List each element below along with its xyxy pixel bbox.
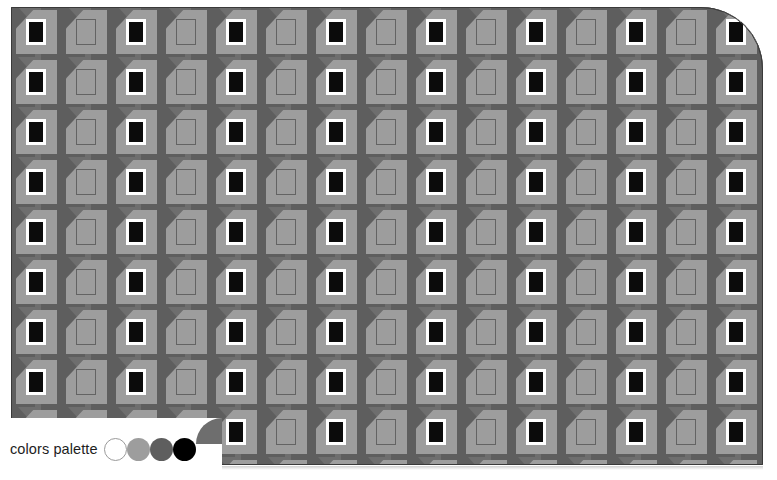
door-outline: [276, 169, 296, 195]
pattern-cell: [561, 357, 611, 407]
door-outline: [576, 69, 596, 95]
pattern-cell-shade: [761, 407, 763, 457]
door-solid: [326, 319, 346, 345]
door-outline: [576, 319, 596, 345]
door-outline: [376, 119, 396, 145]
palette-swatch-light-gray[interactable]: [127, 438, 150, 461]
door-solid: [526, 369, 546, 395]
pattern-cell: [611, 207, 661, 257]
door-outline: [676, 269, 696, 295]
pattern-cell: [111, 157, 161, 207]
pattern-cell: [311, 457, 361, 465]
pattern-cell: [511, 407, 561, 457]
pattern-cell: [411, 107, 461, 157]
door-outline: [476, 269, 496, 295]
door-solid: [626, 269, 646, 295]
door-outline: [676, 69, 696, 95]
pattern-cell: [711, 157, 761, 207]
palette-swatch-black[interactable]: [173, 438, 196, 461]
pattern-cell: [561, 457, 611, 465]
pattern-cell: [611, 257, 661, 307]
pattern-cell: [511, 307, 561, 357]
pattern-cell: [61, 107, 111, 157]
pattern-cell: [461, 157, 511, 207]
door-solid: [526, 219, 546, 245]
door-solid: [26, 169, 46, 195]
door-solid: [326, 169, 346, 195]
pattern-grid: [11, 7, 763, 465]
door-solid: [726, 419, 746, 445]
door-solid: [326, 369, 346, 395]
palette-corner-notch: [196, 418, 222, 444]
door-outline: [276, 69, 296, 95]
door-solid: [126, 369, 146, 395]
pattern-cell: [361, 407, 411, 457]
pattern-cell: [761, 7, 763, 57]
door-solid: [126, 69, 146, 95]
pattern-cell: [761, 257, 763, 307]
door-outline: [676, 169, 696, 195]
door-solid: [326, 269, 346, 295]
door-outline: [676, 319, 696, 345]
pattern-cell: [661, 207, 711, 257]
door-outline: [76, 369, 96, 395]
pattern-cell: [211, 107, 261, 157]
pattern-cell: [161, 357, 211, 407]
door-solid: [126, 219, 146, 245]
pattern-cell-shade: [761, 157, 763, 207]
pattern-cell: [511, 457, 561, 465]
door-solid: [426, 369, 446, 395]
pattern-cell: [511, 107, 561, 157]
door-solid: [226, 169, 246, 195]
door-solid: [226, 419, 246, 445]
palette-swatch-white[interactable]: [104, 438, 127, 461]
pattern-cell: [261, 207, 311, 257]
pattern-cell: [211, 207, 261, 257]
door-outline: [676, 419, 696, 445]
pattern-cell: [111, 357, 161, 407]
pattern-cell: [661, 257, 711, 307]
pattern-cell: [611, 407, 661, 457]
door-outline: [676, 219, 696, 245]
pattern-cell: [411, 157, 461, 207]
pattern-cell: [711, 57, 761, 107]
pattern-cell: [761, 407, 763, 457]
door-solid: [326, 119, 346, 145]
pattern-cell: [661, 357, 711, 407]
pattern-cell: [411, 257, 461, 307]
pattern-cell-shade: [761, 257, 763, 307]
door-outline: [176, 169, 196, 195]
door-outline: [176, 119, 196, 145]
door-solid: [26, 319, 46, 345]
door-solid: [526, 269, 546, 295]
door-outline: [376, 19, 396, 45]
pattern-cell: [11, 157, 61, 207]
pattern-cell: [311, 207, 361, 257]
pattern-cell: [511, 7, 561, 57]
door-solid: [526, 119, 546, 145]
pattern-cell: [361, 107, 411, 157]
door-outline: [76, 219, 96, 245]
pattern-cell: [261, 357, 311, 407]
pattern-cell-shade: [761, 107, 763, 157]
pattern-cell: [461, 107, 511, 157]
door-outline: [476, 419, 496, 445]
door-outline: [376, 319, 396, 345]
door-outline: [576, 19, 596, 45]
pattern-cell: [661, 107, 711, 157]
pattern-cell: [111, 207, 161, 257]
pattern-cell: [111, 7, 161, 57]
door-outline: [576, 119, 596, 145]
door-solid: [426, 419, 446, 445]
palette-swatch-dark-gray[interactable]: [150, 438, 173, 461]
door-outline: [476, 69, 496, 95]
pattern-cell-shade: [761, 57, 763, 107]
door-outline: [76, 319, 96, 345]
pattern-cell: [411, 357, 461, 407]
door-solid: [726, 169, 746, 195]
pattern-cell: [361, 7, 411, 57]
pattern-cell: [211, 257, 261, 307]
door-outline: [176, 369, 196, 395]
pattern-cell: [211, 157, 261, 207]
pattern-cell: [761, 307, 763, 357]
